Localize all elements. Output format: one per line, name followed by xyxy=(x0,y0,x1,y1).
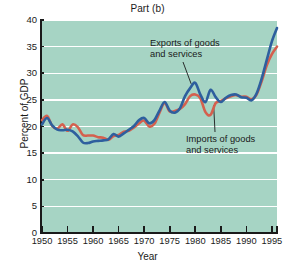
x-tick-label: 1975 xyxy=(159,236,180,246)
gridline xyxy=(42,19,277,20)
x-tick-mark xyxy=(220,226,222,233)
x-tick-label: 1985 xyxy=(210,236,231,246)
x-tick-label: 1960 xyxy=(83,236,104,246)
y-tick-mark xyxy=(40,126,44,128)
x-tick-label: 1995 xyxy=(262,236,283,246)
y-tick-mark xyxy=(40,99,44,101)
gridline xyxy=(42,99,277,100)
gridline xyxy=(42,179,277,180)
x-tick-label: 1970 xyxy=(134,236,155,246)
chart-figure: Part (b) 0510152025303540 19501955196019… xyxy=(0,0,295,270)
x-tick-mark xyxy=(271,226,273,233)
gridline xyxy=(42,73,277,74)
x-tick-label: 1965 xyxy=(108,236,129,246)
y-tick-mark xyxy=(40,46,44,48)
y-tick-label: 5 xyxy=(11,201,37,210)
y-tick-mark xyxy=(40,179,44,181)
x-tick-label: 1955 xyxy=(57,236,78,246)
y-tick-label: 40 xyxy=(11,15,37,24)
x-tick-mark xyxy=(67,226,69,233)
gridline xyxy=(42,206,277,207)
x-tick-label: 1950 xyxy=(32,236,53,246)
x-tick-mark xyxy=(143,226,145,233)
exports-annotation: Exports of goods and services xyxy=(150,38,220,60)
x-tick-mark xyxy=(246,226,248,233)
y-axis-title: Percent of GDP xyxy=(19,54,30,174)
x-axis-title: Year xyxy=(0,251,295,262)
y-tick-mark xyxy=(40,19,44,21)
y-tick-mark xyxy=(40,72,44,74)
x-tick-mark xyxy=(41,226,43,233)
imports-annotation: Imports of goods and services xyxy=(186,134,255,156)
x-tick-mark xyxy=(276,226,278,233)
y-tick-mark xyxy=(40,152,44,154)
y-tick-label: 10 xyxy=(11,175,37,184)
gridline xyxy=(42,126,277,127)
x-tick-label: 1990 xyxy=(236,236,257,246)
x-tick-mark xyxy=(169,226,171,233)
chart-title: Part (b) xyxy=(0,3,295,14)
x-tick-mark xyxy=(118,226,120,233)
x-tick-mark xyxy=(92,226,94,233)
x-axis-line xyxy=(40,232,278,234)
y-tick-label: 35 xyxy=(11,42,37,51)
y-tick-mark xyxy=(40,206,44,208)
x-tick-mark xyxy=(194,226,196,233)
x-tick-label: 1980 xyxy=(185,236,206,246)
